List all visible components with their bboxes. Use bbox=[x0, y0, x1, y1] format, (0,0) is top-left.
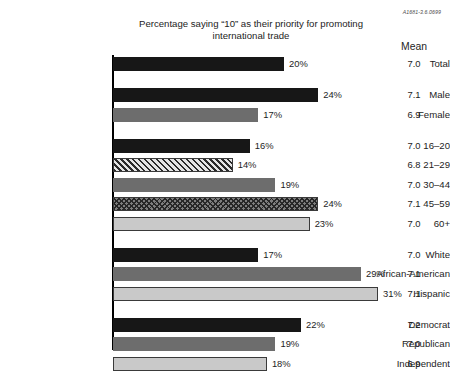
bar-age-4 bbox=[113, 217, 310, 231]
bar-race-1 bbox=[113, 267, 361, 281]
mean-value: 7.0 bbox=[386, 57, 442, 71]
bar-value-label: 22% bbox=[306, 318, 325, 332]
bar-row: Male24%7.1 bbox=[0, 88, 450, 102]
bar-row: 21–2914%6.8 bbox=[0, 158, 450, 172]
bar-row: Total20%7.0 bbox=[0, 57, 450, 71]
bar-value-label: 29% bbox=[366, 267, 385, 281]
mean-value: 7.0 bbox=[386, 178, 442, 192]
mean-value: 6.8 bbox=[386, 158, 442, 172]
bar-value-label: 17% bbox=[263, 108, 282, 122]
bar-row: Republican19%7.0 bbox=[0, 337, 450, 351]
bar-value-label: 23% bbox=[315, 217, 334, 231]
bar-row: Democrat22%7.2 bbox=[0, 318, 450, 332]
bar-party-0 bbox=[113, 318, 301, 332]
bar-value-label: 14% bbox=[238, 158, 257, 172]
bar-value-label: 18% bbox=[272, 357, 291, 371]
bar-overall-0 bbox=[113, 57, 284, 71]
bar-value-label: 24% bbox=[323, 88, 342, 102]
bar-row: 60+23%7.0 bbox=[0, 217, 450, 231]
mean-value: 7.0 bbox=[386, 337, 442, 351]
bar-age-3 bbox=[113, 197, 318, 211]
bar-row: 16–2016%7.0 bbox=[0, 139, 450, 153]
bar-row: 30–4419%7.0 bbox=[0, 178, 450, 192]
chart-title: Percentage saying “10” as their priority… bbox=[118, 18, 384, 42]
bar-race-2 bbox=[113, 287, 378, 301]
bar-age-1 bbox=[113, 158, 233, 172]
bar-party-2 bbox=[113, 357, 267, 371]
bar-row: 45–5924%7.1 bbox=[0, 197, 450, 211]
bar-row: African-American29%7.1 bbox=[0, 267, 450, 281]
figure-id-label: A1681-3.6.0699 bbox=[403, 9, 441, 15]
mean-value: 6.9 bbox=[386, 357, 442, 371]
mean-value: 7.0 bbox=[386, 217, 442, 231]
bar-row: White17%7.0 bbox=[0, 248, 450, 262]
bar-value-label: 19% bbox=[280, 178, 299, 192]
bar-row: Female17%6.9 bbox=[0, 108, 450, 122]
bar-party-1 bbox=[113, 337, 275, 351]
bar-value-label: 19% bbox=[280, 337, 299, 351]
mean-value: 7.0 bbox=[386, 139, 442, 153]
bar-age-2 bbox=[113, 178, 275, 192]
bar-row: Hispanic31%7.1 bbox=[0, 287, 450, 301]
bar-race-0 bbox=[113, 248, 258, 262]
mean-value: 7.2 bbox=[386, 318, 442, 332]
bar-value-label: 24% bbox=[323, 197, 342, 211]
bar-row: Independent18%6.9 bbox=[0, 357, 450, 371]
bar-value-label: 17% bbox=[263, 248, 282, 262]
mean-value: 6.9 bbox=[386, 108, 442, 122]
bar-age-0 bbox=[113, 139, 250, 153]
mean-value: 7.1 bbox=[386, 197, 442, 211]
bar-gender-1 bbox=[113, 108, 258, 122]
bar-gender-0 bbox=[113, 88, 318, 102]
mean-value: 7.1 bbox=[386, 287, 442, 301]
mean-value: 7.1 bbox=[386, 267, 442, 281]
mean-value: 7.0 bbox=[386, 248, 442, 262]
bar-value-label: 20% bbox=[289, 57, 308, 71]
mean-column-header: Mean bbox=[386, 41, 442, 52]
mean-value: 7.1 bbox=[386, 88, 442, 102]
bar-value-label: 16% bbox=[255, 139, 274, 153]
